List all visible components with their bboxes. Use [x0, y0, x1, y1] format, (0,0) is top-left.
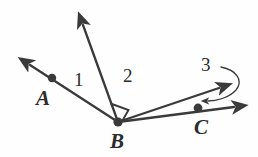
- point-a-dot: [48, 74, 56, 82]
- angle-label-3: 3: [201, 55, 211, 74]
- geometry-diagram-canvas: A B C 1 2 3: [0, 0, 258, 157]
- point-b-dot: [113, 117, 122, 126]
- ray-bc: [118, 107, 234, 122]
- angle-3-arc-icon: [208, 67, 239, 101]
- angle-label-2: 2: [123, 66, 133, 85]
- ray-b-up: [83, 25, 118, 122]
- angle-label-1: 1: [74, 70, 84, 89]
- point-label-a: A: [36, 88, 50, 109]
- point-label-c: C: [194, 117, 208, 138]
- point-c-dot: [194, 104, 203, 113]
- point-label-b: B: [110, 131, 124, 152]
